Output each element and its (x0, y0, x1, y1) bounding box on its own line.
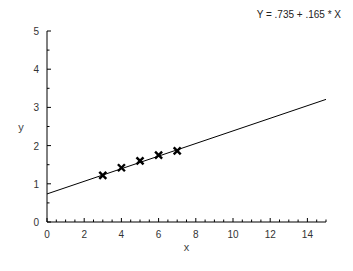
x-tick-label: 2 (81, 229, 87, 240)
y-tick-label: 1 (33, 179, 39, 190)
y-tick-label: 2 (33, 141, 39, 152)
x-tick-label: 10 (227, 229, 239, 240)
y-axis-label: y (18, 121, 24, 133)
x-tick-label: 14 (302, 229, 314, 240)
data-point-marker (137, 157, 144, 164)
plot-area (47, 99, 326, 194)
x-axis-label: x (184, 241, 190, 253)
y-tick-label: 4 (33, 64, 39, 75)
x-tick-label: 12 (265, 229, 277, 240)
x-tick-label: 6 (156, 229, 162, 240)
x-tick-label: 4 (119, 229, 125, 240)
y-tick-label: 3 (33, 102, 39, 113)
x-tick-label: 8 (193, 229, 199, 240)
axes: 02468101214012345 (33, 26, 326, 240)
y-tick-label: 0 (33, 217, 39, 228)
regression-line (47, 99, 326, 194)
scatter-chart: 02468101214012345 x y (0, 0, 353, 271)
y-tick-label: 5 (33, 26, 39, 37)
x-tick-label: 0 (44, 229, 50, 240)
